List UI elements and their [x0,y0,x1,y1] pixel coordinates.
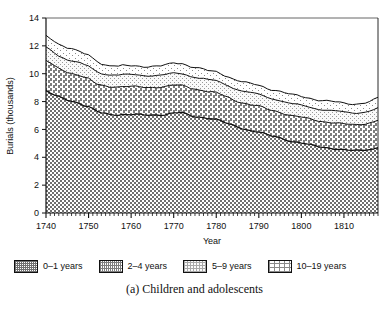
x-tick-label: 1770 [164,221,184,231]
x-tick-label: 1780 [206,221,226,231]
x-tick-label: 1750 [79,221,99,231]
stacked-area-chart: 0246810121417401750176017701780179018001… [0,8,389,248]
legend-item-2-4-years[interactable]: 2–4 years [99,260,168,273]
x-tick-label: 1800 [291,221,311,231]
area-bands [46,35,378,213]
x-tick-label: 1810 [334,221,354,231]
legend: 0–1 years 2–4 years 5–9 years 10–19 year… [0,255,389,277]
y-tick-label: 6 [34,125,39,135]
y-tick-label: 0 [34,208,39,218]
y-axis-title: Burials (thousands) [5,77,15,155]
y-tick-label: 4 [34,152,39,162]
figure-children-and-adolescents: 0246810121417401750176017701780179018001… [0,0,389,310]
plot-area: 0246810121417401750176017701780179018001… [0,8,389,248]
legend-item-10-19-years[interactable]: 10–19 years [268,260,347,273]
y-tick-label: 10 [29,69,39,79]
legend-swatch-2-4-years [99,260,123,273]
legend-item-5-9-years[interactable]: 5–9 years [183,260,252,273]
legend-label-2-4-years: 2–4 years [128,261,168,271]
y-tick-label: 12 [29,41,39,51]
x-tick-label: 1760 [121,221,141,231]
legend-swatch-0-1-years [14,260,38,273]
x-axis-title: Year [203,236,221,246]
figure-caption: (a) Children and adolescents [0,282,389,297]
y-axis-ticks: 02468101214 [29,13,46,218]
legend-label-5-9-years: 5–9 years [212,261,252,271]
legend-swatch-10-19-years [268,260,292,273]
x-tick-label: 1740 [36,221,56,231]
y-tick-label: 2 [34,180,39,190]
legend-label-0-1-years: 0–1 years [43,261,83,271]
y-tick-label: 14 [29,13,39,23]
y-tick-label: 8 [34,97,39,107]
legend-swatch-5-9-years [183,260,207,273]
legend-item-0-1-years[interactable]: 0–1 years [14,260,83,273]
x-tick-label: 1790 [249,221,269,231]
legend-label-10-19-years: 10–19 years [297,261,347,271]
